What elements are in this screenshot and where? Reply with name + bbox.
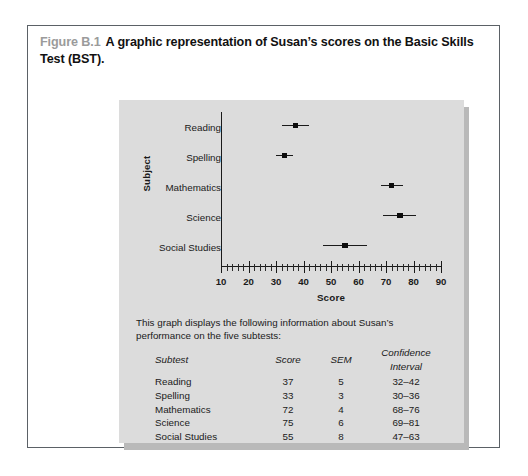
x-tick-minor xyxy=(271,264,272,271)
cell-subtest: Spelling xyxy=(155,389,259,403)
figure-caption-text: A graphic representation of Susan’s scor… xyxy=(40,35,474,66)
category-label-social-studies: Social Studies xyxy=(61,242,221,253)
table-row: Science75669–81 xyxy=(155,416,447,430)
x-tick-major-70 xyxy=(386,261,387,273)
x-tick-minor xyxy=(238,264,239,271)
scatter-chart: Subject Reading Spelling Mathematics Sci… xyxy=(119,100,464,310)
x-tick-minor xyxy=(375,264,376,271)
x-tick-minor xyxy=(260,264,261,271)
data-point-marker xyxy=(282,153,288,159)
x-tick-major-60 xyxy=(359,261,360,273)
figure-number: Figure B.1 xyxy=(40,35,101,49)
x-tick-major-90 xyxy=(441,261,442,273)
x-tick-minor xyxy=(337,264,338,271)
x-tick-label-10: 10 xyxy=(206,276,236,287)
cell-sem: 5 xyxy=(317,375,365,389)
x-tick-minor xyxy=(419,264,420,271)
content-panel: Subject Reading Spelling Mathematics Sci… xyxy=(119,100,464,443)
cell-sem: 8 xyxy=(317,430,365,444)
cell-subtest: Social Studies xyxy=(155,430,259,444)
cell-subtest: Mathematics xyxy=(155,403,259,417)
cell-score: 75 xyxy=(259,416,317,430)
x-tick-major-20 xyxy=(249,261,250,273)
cell-subtest: Reading xyxy=(155,375,259,389)
cell-confidence-interval: 32–42 xyxy=(365,375,447,389)
category-label-spelling: Spelling xyxy=(61,152,221,163)
description-text: This graph displays the following inform… xyxy=(136,316,448,342)
x-tick-minor xyxy=(392,264,393,271)
column-header-subtest: Subtest xyxy=(155,346,259,375)
table-row: Spelling33330–36 xyxy=(155,389,447,403)
x-tick-minor xyxy=(254,264,255,271)
table-header-row: Subtest Score SEM Confidence Interval xyxy=(155,346,447,375)
x-tick-minor xyxy=(293,264,294,271)
cell-confidence-interval: 69–81 xyxy=(365,416,447,430)
x-tick-minor xyxy=(243,264,244,271)
x-tick-minor xyxy=(315,264,316,271)
x-tick-minor xyxy=(425,264,426,271)
cell-score: 37 xyxy=(259,375,317,389)
table-row: Social Studies55847–63 xyxy=(155,430,447,444)
x-tick-major-50 xyxy=(331,261,332,273)
data-point-marker xyxy=(397,213,403,219)
x-tick-minor xyxy=(348,264,349,271)
table-body: Reading37532–42Spelling33330–36Mathemati… xyxy=(155,375,447,444)
figure-caption: Figure B.1A graphic representation of Su… xyxy=(40,34,488,67)
column-header-confidence-interval: Confidence Interval xyxy=(365,346,447,375)
x-tick-minor xyxy=(326,264,327,271)
x-tick-minor xyxy=(430,264,431,271)
x-tick-major-10 xyxy=(221,261,222,273)
x-tick-label-20: 20 xyxy=(234,276,264,287)
x-tick-minor xyxy=(364,264,365,271)
x-tick-major-40 xyxy=(304,261,305,273)
x-tick-minor xyxy=(436,264,437,271)
x-tick-label-70: 70 xyxy=(371,276,401,287)
x-tick-label-80: 80 xyxy=(399,276,429,287)
x-tick-minor xyxy=(342,264,343,271)
y-axis-line xyxy=(221,112,222,267)
cell-score: 72 xyxy=(259,403,317,417)
x-tick-minor xyxy=(381,264,382,271)
cell-confidence-interval: 30–36 xyxy=(365,389,447,403)
x-tick-minor xyxy=(265,264,266,271)
table-row: Mathematics72468–76 xyxy=(155,403,447,417)
cell-score: 55 xyxy=(259,430,317,444)
x-axis-title: Score xyxy=(221,292,441,303)
x-tick-minor xyxy=(227,264,228,271)
data-point-marker xyxy=(293,123,299,129)
category-label-mathematics: Mathematics xyxy=(61,182,221,193)
cell-confidence-interval: 47–63 xyxy=(365,430,447,444)
figure-frame: Figure B.1A graphic representation of Su… xyxy=(27,25,500,448)
cell-confidence-interval: 68–76 xyxy=(365,403,447,417)
x-tick-label-50: 50 xyxy=(316,276,346,287)
x-tick-minor xyxy=(320,264,321,271)
x-tick-label-60: 60 xyxy=(344,276,374,287)
x-tick-minor xyxy=(403,264,404,271)
x-tick-minor xyxy=(232,264,233,271)
column-header-sem: SEM xyxy=(317,346,365,375)
x-tick-label-30: 30 xyxy=(261,276,291,287)
cell-sem: 6 xyxy=(317,416,365,430)
x-tick-minor xyxy=(309,264,310,271)
x-tick-label-90: 90 xyxy=(426,276,456,287)
figure-page: Figure B.1A graphic representation of Su… xyxy=(0,0,528,476)
category-label-science: Science xyxy=(61,212,221,223)
category-label-reading: Reading xyxy=(61,122,221,133)
x-tick-minor xyxy=(298,264,299,271)
cell-score: 33 xyxy=(259,389,317,403)
x-tick-major-80 xyxy=(414,261,415,273)
cell-sem: 4 xyxy=(317,403,365,417)
description-line-2: on the five subtests: xyxy=(194,330,281,341)
cell-subtest: Science xyxy=(155,416,259,430)
scores-table: Subtest Score SEM Confidence Interval Re… xyxy=(155,346,447,444)
x-tick-minor xyxy=(353,264,354,271)
x-tick-minor xyxy=(408,264,409,271)
data-point-marker xyxy=(342,243,348,249)
x-tick-minor xyxy=(397,264,398,271)
y-axis-title: Subject xyxy=(141,134,152,214)
column-header-score: Score xyxy=(259,346,317,375)
data-point-marker xyxy=(389,183,395,189)
x-tick-label-40: 40 xyxy=(289,276,319,287)
x-tick-minor xyxy=(370,264,371,271)
x-tick-minor xyxy=(282,264,283,271)
